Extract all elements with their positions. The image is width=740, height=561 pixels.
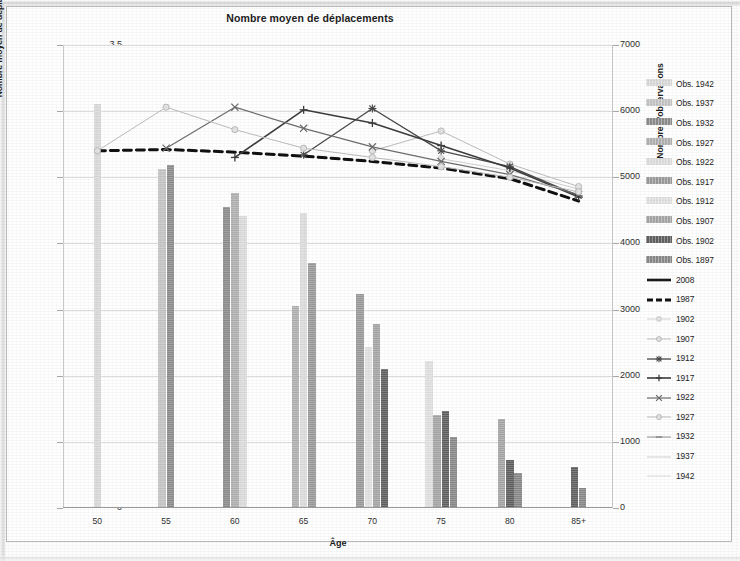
- x-axis-tick-label: 65: [274, 516, 334, 526]
- legend-item[interactable]: 1987: [646, 290, 738, 310]
- y-axis-secondary-tick-label: 0: [620, 502, 666, 512]
- legend-key-swatch: [646, 471, 672, 480]
- legend-item[interactable]: 1907: [646, 329, 738, 349]
- y-axis-primary-tick-mark: [57, 508, 63, 509]
- legend-item[interactable]: Obs. 1897: [646, 250, 738, 270]
- legend-bar-swatch: [646, 256, 672, 263]
- legend-item-label: 1942: [676, 471, 694, 481]
- y-axis-secondary-tick-mark: [613, 442, 619, 443]
- legend-item[interactable]: 1927: [646, 407, 738, 427]
- scanned-page: Nombre moyen de déplacements Nombre moye…: [0, 0, 740, 561]
- x-axis-tick-label: 55: [136, 516, 196, 526]
- legend-item[interactable]: Obs. 1902: [646, 231, 738, 251]
- line-marker: [163, 104, 169, 110]
- legend-item[interactable]: 1902: [646, 309, 738, 329]
- y-axis-secondary-tick-label: 7000: [620, 39, 666, 49]
- legend-item[interactable]: 1932: [646, 427, 738, 447]
- line-series: [300, 104, 583, 199]
- line-marker: [657, 317, 662, 322]
- legend-item-label: Obs. 1917: [676, 177, 714, 187]
- legend-item-label: 1922: [676, 392, 694, 402]
- legend-key-swatch: [646, 452, 672, 461]
- legend-bar-swatch: [646, 138, 672, 145]
- legend-key-swatch: [646, 256, 672, 265]
- legend-item-label: 1987: [676, 294, 694, 304]
- y-axis-secondary-tick-mark: [613, 111, 619, 112]
- legend-key-swatch: [646, 354, 672, 363]
- line-marker: [438, 164, 444, 170]
- legend-item-label: 1912: [676, 353, 694, 363]
- legend-item-label: 1927: [676, 412, 694, 422]
- legend-key-swatch: [646, 275, 672, 284]
- legend-item[interactable]: Obs. 1922: [646, 152, 738, 172]
- legend-key-swatch: [646, 216, 672, 225]
- legend-item[interactable]: Obs. 1937: [646, 94, 738, 114]
- x-axis-tick-label: 85+: [549, 516, 609, 526]
- line-marker: [507, 174, 513, 180]
- line-marker: [231, 104, 238, 111]
- legend-key-swatch: [646, 393, 672, 402]
- legend-item-label: Obs. 1907: [676, 216, 714, 226]
- legend-line-swatch: [646, 471, 672, 481]
- legend-item[interactable]: Obs. 1942: [646, 74, 738, 94]
- x-axis-line: [63, 507, 613, 508]
- legend-item[interactable]: Obs. 1917: [646, 172, 738, 192]
- y-axis-secondary-tick-mark: [613, 310, 619, 311]
- legend-line-swatch: [646, 452, 672, 462]
- line-marker: [368, 119, 376, 127]
- legend-item[interactable]: 1912: [646, 348, 738, 368]
- scan-edge-bottom: [0, 556, 740, 561]
- legend-key-swatch: [646, 197, 672, 206]
- line-marker: [657, 337, 662, 342]
- legend-bar-swatch: [646, 99, 672, 106]
- legend-line-swatch: [646, 295, 672, 305]
- line-marker: [656, 375, 662, 381]
- legend-item[interactable]: Obs. 1907: [646, 211, 738, 231]
- legend-item-label: Obs. 1937: [676, 98, 714, 108]
- line-marker: [656, 355, 662, 361]
- legend-bar-swatch: [646, 216, 672, 223]
- line-series-group: [63, 45, 613, 508]
- legend-item[interactable]: 1917: [646, 368, 738, 388]
- line-marker: [94, 148, 100, 154]
- legend-item[interactable]: 1937: [646, 446, 738, 466]
- legend-item[interactable]: Obs. 1912: [646, 192, 738, 212]
- legend-line-swatch: [646, 334, 672, 344]
- legend-item-label: Obs. 1932: [676, 118, 714, 128]
- line-marker: [657, 415, 662, 420]
- legend-item-label: Obs. 1922: [676, 157, 714, 167]
- x-axis-title: Âge: [63, 538, 613, 548]
- legend-item-label: Obs. 1912: [676, 196, 714, 206]
- x-axis-tick-label: 60: [205, 516, 265, 526]
- x-axis-tick-label: 70: [342, 516, 402, 526]
- plot-area: [63, 45, 613, 508]
- legend-item-label: 1902: [676, 314, 694, 324]
- legend-line-swatch: [646, 275, 672, 285]
- legend-line-swatch: [646, 432, 672, 442]
- legend-item[interactable]: 2008: [646, 270, 738, 290]
- legend-item-label: 1917: [676, 373, 694, 383]
- legend-item-label: 1932: [676, 431, 694, 441]
- legend-line-swatch: [646, 373, 672, 383]
- legend-key-swatch: [646, 118, 672, 127]
- legend-item[interactable]: Obs. 1927: [646, 133, 738, 153]
- legend-key-swatch: [646, 412, 672, 421]
- legend-key-swatch: [646, 295, 672, 304]
- line-marker: [576, 189, 582, 195]
- legend-item-label: Obs. 1902: [676, 236, 714, 246]
- line-marker: [232, 127, 238, 133]
- legend-bar-swatch: [646, 177, 672, 184]
- legend-item[interactable]: 1922: [646, 388, 738, 408]
- legend-bar-swatch: [646, 79, 672, 86]
- y-axis-secondary-tick-mark: [613, 243, 619, 244]
- legend-line-swatch: [646, 314, 672, 324]
- legend-item-label: 2008: [676, 275, 694, 285]
- legend-item[interactable]: Obs. 1932: [646, 113, 738, 133]
- line-marker: [300, 125, 307, 132]
- legend-key-swatch: [646, 99, 672, 108]
- legend-bar-swatch: [646, 236, 672, 243]
- x-axis-tick-label: 75: [411, 516, 471, 526]
- legend-item[interactable]: 1942: [646, 466, 738, 486]
- chart-title: Nombre moyen de déplacements: [0, 12, 620, 24]
- legend-line-swatch: [646, 412, 672, 422]
